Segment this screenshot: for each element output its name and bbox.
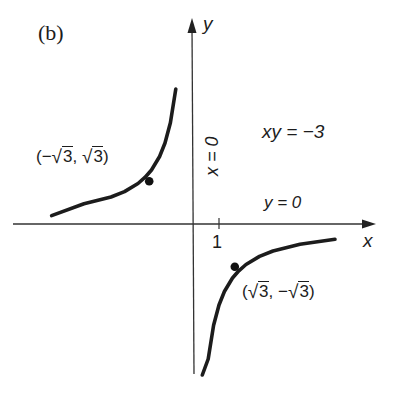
radical-icon: √ — [248, 282, 258, 301]
paren-close: ) — [103, 147, 109, 166]
sqrt-3: √3 — [288, 281, 309, 300]
curve-branch-lower-right — [202, 239, 335, 375]
panel-label: (b) — [38, 22, 64, 44]
x-axis-label: x — [363, 231, 373, 250]
point-marker-lower-right — [231, 263, 240, 272]
minus-sign: − — [278, 282, 288, 301]
sqrt-3: √3 — [82, 146, 103, 165]
y-axis-arrow-icon — [188, 18, 197, 33]
comma: , — [269, 282, 274, 301]
minus-sign: − — [42, 147, 52, 166]
sqrt-3: √3 — [248, 281, 269, 300]
comma: , — [73, 147, 78, 166]
radical-icon: √ — [52, 147, 62, 166]
equation-label: xy = −3 — [262, 122, 324, 141]
point-marker-upper-left — [145, 177, 154, 186]
hyperbola-graph — [0, 0, 394, 396]
x-axis-arrow-icon — [362, 220, 376, 229]
radical-icon: √ — [288, 282, 298, 301]
point-label-lower-right: (√3, −√3) — [242, 281, 315, 300]
horizontal-asymptote-label: y = 0 — [264, 194, 301, 211]
y-axis-label: y — [203, 14, 213, 33]
tick-label-1: 1 — [212, 233, 222, 251]
point-label-upper-left: (−√3, √3) — [36, 146, 109, 165]
vertical-asymptote-label: x = 0 — [203, 136, 221, 176]
radical-icon: √ — [82, 147, 92, 166]
paren-close: ) — [309, 282, 315, 301]
sqrt-3: √3 — [52, 146, 73, 165]
y-axis — [192, 26, 194, 374]
